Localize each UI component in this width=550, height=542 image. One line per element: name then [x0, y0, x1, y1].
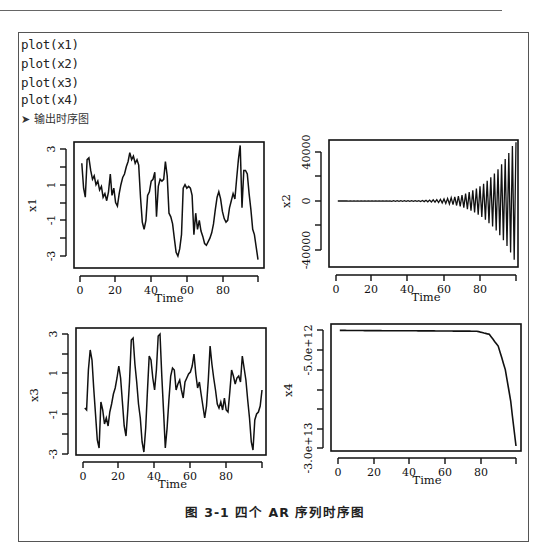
x-axis-title: Time: [154, 291, 183, 305]
x-axis-title: Time: [158, 477, 187, 491]
figure-caption: 图 3-1 四个 AR 序列时序图: [0, 502, 550, 521]
plot-box: [76, 328, 266, 455]
x-tick-label: 0: [333, 283, 340, 296]
y-tick-label: 40000: [300, 135, 313, 170]
x-tick-label: 80: [473, 283, 487, 296]
series-line: [82, 145, 258, 259]
y-tick-label: -3.0e+13: [302, 423, 315, 474]
y-axis-title: x3: [27, 388, 41, 402]
series-line: [340, 330, 516, 446]
plot-box: [331, 324, 521, 451]
plot-x3: 13-1-3020406080Timex3: [27, 328, 266, 491]
x-axis-title: Time: [411, 290, 440, 304]
plot-x1: 13-1-3020406080Timex1: [25, 142, 264, 305]
y-tick-label: -40000: [300, 231, 313, 270]
y-tick-label: -3: [45, 251, 58, 262]
x-tick-label: 80: [216, 284, 230, 297]
x-tick-label: 0: [335, 466, 342, 479]
y-tick-label: 1: [47, 370, 60, 377]
y-axis-title: x2: [279, 194, 293, 208]
y-tick-label: -5.0e+12: [302, 325, 315, 376]
plot-x2: 040000-40000020406080Timex2: [279, 135, 518, 305]
x-tick-label: 20: [364, 283, 378, 296]
y-axis-title: x1: [25, 198, 39, 212]
series-line: [338, 142, 516, 260]
y-tick-label: 3: [47, 331, 60, 338]
y-tick-label: 0: [300, 198, 313, 205]
series-line: [85, 334, 262, 452]
x-tick-label: 0: [77, 284, 84, 297]
y-tick-label: -1: [47, 409, 60, 420]
x-axis-title: Time: [412, 473, 441, 487]
y-axis-title: x4: [281, 383, 295, 397]
x-tick-label: 20: [367, 466, 381, 479]
y-tick-label: -1: [45, 215, 58, 226]
x-tick-label: 80: [474, 466, 488, 479]
x-tick-label: 20: [111, 470, 125, 483]
x-tick-label: 20: [108, 284, 122, 297]
y-tick-label: -3: [47, 449, 60, 460]
x-tick-label: 80: [219, 470, 233, 483]
plot-x4: -5.0e+12-3.0e+13020406080Timex4: [281, 324, 521, 487]
y-tick-label: 3: [45, 146, 58, 153]
y-tick-label: 1: [45, 182, 58, 189]
x-tick-label: 0: [80, 470, 87, 483]
